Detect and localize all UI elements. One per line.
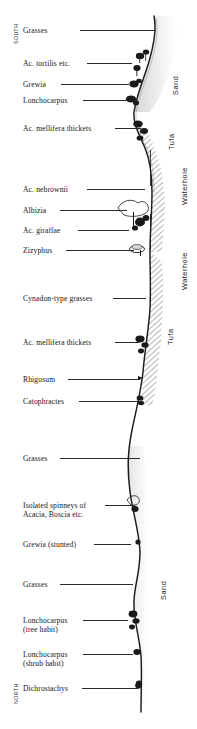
leader-line-rhigosum [68, 379, 140, 380]
leader-line-dichrostachys [82, 688, 138, 689]
species-label-grasses-mid: Grasses [23, 455, 47, 464]
species-label-text: Ac. nebrownii [23, 185, 68, 194]
species-label-text: Isolated spinneys of [23, 501, 86, 510]
species-label-ac-nebrownii: Ac. nebrownii [23, 186, 68, 195]
substrate-label-waterhole-top: Waterhole [181, 167, 188, 205]
leader-line-grasses-top [80, 30, 156, 31]
species-label-lonchocarpus-shrub: Lonchocarpus(shrub habit) [23, 651, 67, 668]
leader-line-cynadon-type-grasses [113, 298, 146, 299]
species-label-text: Cynadon-type grasses [23, 294, 92, 303]
substrate-label-tufa-top: Tufa [168, 133, 175, 150]
species-label-text: Grasses [23, 26, 47, 35]
leader-line-lonchocarpus-shrub [83, 654, 133, 655]
leader-line-isolated-spinneys [105, 505, 135, 506]
leader-line-albizia [60, 210, 127, 211]
species-label-grasses-top: Grasses [23, 27, 47, 36]
leader-line-catophractes [79, 401, 141, 402]
leader-line-grewia-stunted [94, 544, 131, 545]
species-label-text-line2: (shrub habit) [23, 660, 67, 669]
species-label-text: Ac. mellifera thickets [23, 124, 91, 133]
leader-line-ac-tortilis [87, 63, 132, 64]
substrate-label-tufa-mid: Tufa [167, 328, 174, 345]
species-label-grasses-low: Grasses [23, 581, 47, 590]
species-label-text: Grewia [23, 80, 46, 89]
species-label-text: Ac. tortilis etc. [23, 59, 70, 68]
orientation-label-north: NORTH [14, 683, 19, 704]
species-label-text: Lonchocarpus [23, 650, 67, 659]
leader-line-lonchocarpus-top [83, 100, 128, 101]
vegetation-transect-figure: SOUTH NORTH GrassesAc. tortilis etc.Grew… [0, 0, 197, 729]
species-label-text: Rhigosum [23, 375, 55, 384]
species-label-catophractes: Catophractes [23, 398, 64, 407]
species-label-zizyphus: Zizyphus [23, 247, 52, 256]
leader-line-grasses-low [60, 584, 133, 585]
leader-line-zizyphus [66, 250, 134, 251]
leader-line-lonchocarpus-tree [83, 620, 128, 621]
species-label-text: Grasses [23, 580, 47, 589]
species-label-cynadon-type-grasses: Cynadon-type grasses [23, 295, 92, 304]
substrate-label-waterhole-mid: Waterhole [181, 252, 188, 290]
species-label-ac-mellifera-thickets-1: Ac. mellifera thickets [23, 125, 91, 134]
species-label-text: Grasses [23, 454, 47, 463]
species-label-grewia: Grewia [23, 81, 46, 90]
substrate-label-sand-bottom: Sand [160, 581, 167, 600]
leader-line-ac-mellifera-thickets-1 [115, 128, 141, 129]
species-label-text: Dichrostachys [23, 684, 68, 693]
tufa-hatch-lower [140, 252, 163, 406]
species-label-rhigosum: Rhigosum [23, 376, 55, 385]
leader-line-grasses-mid [60, 458, 140, 459]
leader-line-ac-nebrownii [87, 189, 145, 190]
species-label-lonchocarpus-top: Lonchocarpus [23, 97, 67, 106]
leader-line-grewia [61, 84, 129, 85]
substrate-label-sand-top: Sand [172, 76, 179, 95]
species-label-text-line2: Acacia, Boscia etc. [23, 511, 86, 520]
species-label-isolated-spinneys: Isolated spinneys ofAcacia, Boscia etc. [23, 502, 86, 519]
species-label-text: Lonchocarpus [23, 96, 67, 105]
species-label-albizia: Albizia [23, 207, 46, 216]
species-label-ac-tortilis: Ac. tortilis etc. [23, 60, 70, 69]
species-label-text: Lonchocarpus [23, 616, 67, 625]
orientation-label-south: SOUTH [14, 24, 19, 44]
species-label-ac-giraffae: Ac. giraffae [23, 227, 61, 236]
species-label-grewia-stunted: Grewia (stunted) [23, 541, 76, 550]
species-label-text: Albizia [23, 206, 46, 215]
leader-line-ac-mellifera-thickets-2 [115, 342, 139, 343]
species-label-text: Zizyphus [23, 246, 52, 255]
leader-line-ac-giraffae [78, 230, 129, 231]
species-label-text: Ac. mellifera thickets [23, 338, 91, 347]
species-label-text-line2: (tree habit) [23, 626, 67, 635]
species-label-text: Ac. giraffae [23, 226, 61, 235]
species-label-lonchocarpus-tree: Lonchocarpus(tree habit) [23, 617, 67, 634]
species-label-dichrostachys: Dichrostachys [23, 685, 68, 694]
species-label-text: Grewia (stunted) [23, 540, 76, 549]
species-label-ac-mellifera-thickets-2: Ac. mellifera thickets [23, 339, 91, 348]
species-label-text: Catophractes [23, 397, 64, 406]
